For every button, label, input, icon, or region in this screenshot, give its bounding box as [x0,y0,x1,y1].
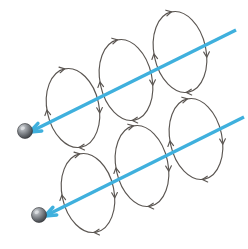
particle-sphere [32,208,47,223]
lower-particle [32,208,47,223]
physics-diagram [0,0,248,249]
particle-sphere [18,124,33,139]
upper-particle [18,124,33,139]
figure-container [0,0,248,249]
